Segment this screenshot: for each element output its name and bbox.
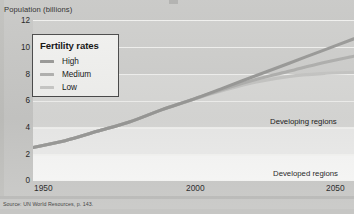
page-artifact-bottom [0, 209, 354, 214]
legend-item-medium: Medium [40, 68, 118, 81]
page-artifact-top [169, 0, 178, 4]
legend-swatch-medium [40, 73, 54, 76]
y-tick-4: 4 [4, 123, 30, 132]
y-tick-10: 10 [4, 43, 30, 52]
legend-title: Fertility rates [40, 40, 118, 51]
x-tick-2000: 2000 [186, 183, 205, 193]
legend-label-medium: Medium [62, 70, 91, 79]
legend-label-low: Low [62, 83, 77, 92]
y-tick-12: 12 [4, 16, 30, 25]
legend-box: Fertility rates High Medium Low [32, 34, 119, 97]
x-tick-1950: 1950 [34, 183, 53, 193]
x-tick-2050: 2050 [326, 183, 345, 193]
legend-item-low: Low [40, 81, 118, 94]
y-tick-0: 0 [4, 176, 30, 185]
source-caption: Source: UN World Resources, p. 143. [3, 201, 93, 207]
legend-swatch-high [40, 60, 54, 63]
y-tick-2: 2 [4, 150, 30, 159]
y-tick-6: 6 [4, 96, 30, 105]
y-tick-8: 8 [4, 70, 30, 79]
annotation-developed-regions: Developed regions [273, 169, 338, 178]
legend-swatch-low [40, 86, 54, 89]
y-axis-labels: 12 10 8 6 4 2 0 [0, 0, 30, 214]
legend-label-high: High [62, 57, 79, 66]
figure-container: Population (billions) 12 10 8 6 4 2 0 19… [0, 0, 354, 214]
legend-item-high: High [40, 55, 118, 68]
footer-divider [0, 196, 354, 199]
annotation-developing-regions: Developing regions [270, 117, 337, 126]
